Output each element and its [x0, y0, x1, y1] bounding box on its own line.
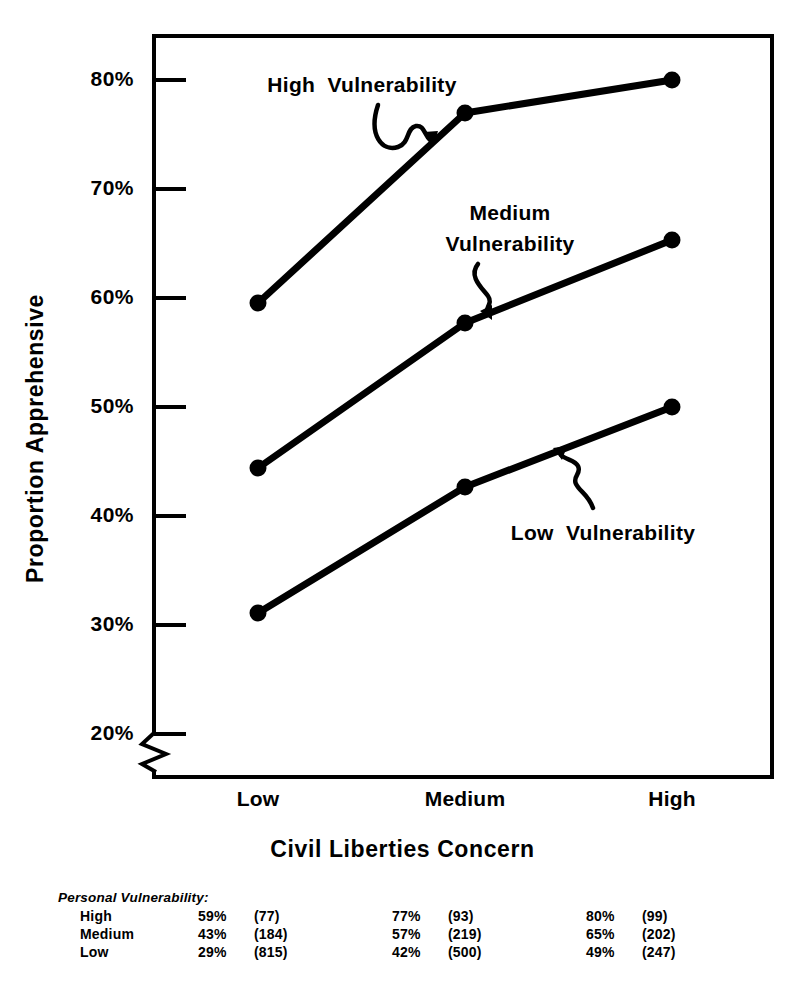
spacer-cell — [310, 943, 392, 961]
table-row: Medium 43% (184) 57% (219) 65% (202) — [80, 925, 698, 943]
series-high-vulnerability — [250, 72, 681, 312]
table-row: Low 29% (815) 42% (500) 49% (247) — [80, 943, 698, 961]
y-tick-label-30: 30% — [48, 612, 134, 636]
spacer-cell — [504, 943, 586, 961]
y-tick-label-60: 60% — [48, 285, 134, 309]
x-tick-label-medium: Medium — [385, 787, 545, 811]
spacer-cell — [504, 925, 586, 943]
cell-high-high-n: (99) — [642, 907, 698, 925]
row-label-low: Low — [80, 943, 198, 961]
x-axis-title: Civil Liberties Concern — [0, 836, 805, 863]
cell-low-high-n: (247) — [642, 943, 698, 961]
row-label-medium: Medium — [80, 925, 198, 943]
y-axis-title: Proportion Apprehensive — [22, 294, 49, 583]
spacer-cell — [504, 907, 586, 925]
cell-medium-high-pct: 65% — [586, 925, 642, 943]
y-tick-label-20: 20% — [48, 721, 134, 745]
annotation-high-vulnerability: High Vulnerability — [232, 73, 492, 97]
data-point — [664, 72, 681, 89]
data-point — [250, 460, 267, 477]
annotation-low-vulnerability: Low Vulnerability — [488, 521, 718, 545]
cell-low-med-n: (500) — [448, 943, 504, 961]
y-tick-label-50: 50% — [48, 394, 134, 418]
y-tick-label-70: 70% — [48, 176, 134, 200]
y-axis-ticks — [154, 80, 186, 734]
x-tick-label-low: Low — [178, 787, 338, 811]
annotation-medium-vulnerability-line2: Vulnerability — [420, 232, 600, 256]
data-point — [250, 605, 267, 622]
cell-low-med-pct: 42% — [392, 943, 448, 961]
data-point — [457, 315, 474, 332]
cell-low-low-pct: 29% — [198, 943, 254, 961]
cell-medium-med-pct: 57% — [392, 925, 448, 943]
data-point — [250, 295, 267, 312]
data-point — [457, 479, 474, 496]
cell-low-high-pct: 49% — [586, 943, 642, 961]
cell-low-low-n: (815) — [254, 943, 310, 961]
annotation-arrow-high — [375, 105, 438, 148]
data-point — [457, 105, 474, 122]
cell-high-med-pct: 77% — [392, 907, 448, 925]
row-label-high: High — [80, 907, 198, 925]
x-tick-label-high: High — [592, 787, 752, 811]
series-medium-vulnerability — [250, 232, 681, 477]
spacer-cell — [310, 925, 392, 943]
cell-high-med-n: (93) — [448, 907, 504, 925]
data-point — [664, 232, 681, 249]
y-tick-label-40: 40% — [48, 503, 134, 527]
axis-break-zigzag — [142, 733, 166, 772]
cell-medium-high-n: (202) — [642, 925, 698, 943]
data-point — [664, 399, 681, 416]
cell-high-low-pct: 59% — [198, 907, 254, 925]
cell-high-low-n: (77) — [254, 907, 310, 925]
y-tick-label-80: 80% — [48, 67, 134, 91]
plot-frame — [152, 36, 774, 779]
spacer-cell — [310, 907, 392, 925]
annotation-arrow-medium — [475, 264, 493, 320]
annotation-medium-vulnerability-line1: Medium — [420, 201, 600, 225]
cell-medium-low-pct: 43% — [198, 925, 254, 943]
cell-medium-low-n: (184) — [254, 925, 310, 943]
footnote-data-table: Personal Vulnerability: High 59% (77) 77… — [58, 890, 758, 961]
cell-high-high-pct: 80% — [586, 907, 642, 925]
cell-medium-med-n: (219) — [448, 925, 504, 943]
table-row: High 59% (77) 77% (93) 80% (99) — [80, 907, 698, 925]
annotation-arrow-low — [553, 446, 593, 508]
table-caption: Personal Vulnerability: — [58, 890, 758, 905]
vulnerability-value-table: High 59% (77) 77% (93) 80% (99) Medium 4… — [80, 907, 698, 961]
figure-container: 80% 70% 60% 50% 40% 30% 20% Low Medium H… — [0, 0, 805, 1002]
